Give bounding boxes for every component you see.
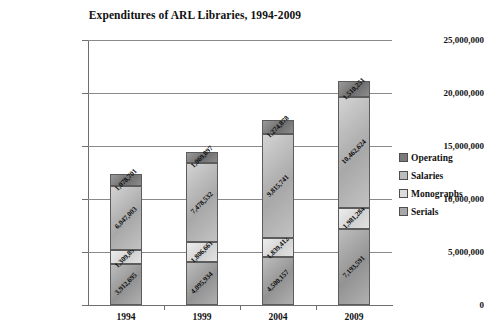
bar-segment-value-label: 6,047,003 bbox=[113, 205, 138, 230]
bar-segment-value-label: 1,839,412 bbox=[265, 235, 290, 260]
bar-segment-value-label: 4,500,157 bbox=[265, 268, 290, 293]
bar-segment-salaries[interactable]: 6,047,003 bbox=[110, 186, 142, 250]
legend-swatch-icon bbox=[399, 207, 408, 216]
x-axis-tick-label: 1999 bbox=[172, 312, 232, 322]
bar-segment-operating[interactable]: 1,078,701 bbox=[110, 174, 142, 185]
x-axis-tick bbox=[316, 305, 317, 310]
bar-group[interactable]: 3,912,6951,309,8976,047,0031,078,701 bbox=[110, 40, 142, 305]
legend-swatch-icon bbox=[399, 171, 408, 180]
bar-segment-monographs[interactable]: 1,839,412 bbox=[262, 238, 294, 257]
y-axis-tick-label: 0 bbox=[406, 300, 484, 310]
chart-title: Expenditures of ARL Libraries, 1994-2009 bbox=[0, 9, 390, 21]
x-axis-tick-label: 1994 bbox=[96, 312, 156, 322]
bar-group[interactable]: 7,193,5911,981,28410,462,6241,510,251 bbox=[338, 40, 370, 305]
bar-segment-salaries[interactable]: 10,462,624 bbox=[338, 97, 370, 208]
legend-item-label: Serials bbox=[411, 207, 438, 217]
x-axis-tick bbox=[164, 305, 165, 310]
x-axis-tick-label: 2009 bbox=[324, 312, 384, 322]
y-axis-tick-label: 20,000,000 bbox=[406, 88, 484, 98]
legend-item-label: Monographs bbox=[411, 189, 463, 199]
bar-segment-salaries[interactable]: 7,478,532 bbox=[186, 163, 218, 242]
bar-segment-operating[interactable]: 1,510,251 bbox=[338, 81, 370, 97]
bar-segment-value-label: 10,462,624 bbox=[340, 138, 368, 166]
bar-segment-serials[interactable]: 3,912,695 bbox=[110, 264, 142, 305]
chart-container: Expenditures of ARL Libraries, 1994-2009… bbox=[0, 0, 484, 335]
chart-legend: OperatingSalariesMonographsSerials bbox=[399, 150, 484, 222]
bar-group[interactable]: 4,095,9341,806,6617,478,5321,069,897 bbox=[186, 40, 218, 305]
bar-segment-value-label: 1,806,661 bbox=[189, 239, 214, 264]
x-axis-tick-label: 2004 bbox=[248, 312, 308, 322]
legend-item-monographs[interactable]: Monographs bbox=[399, 186, 484, 201]
legend-item-label: Salaries bbox=[411, 171, 443, 181]
y-axis-tick bbox=[82, 305, 88, 306]
bar-segment-operating[interactable]: 1,069,897 bbox=[186, 152, 218, 163]
legend-item-label: Operating bbox=[411, 153, 453, 163]
bar-group[interactable]: 4,500,1571,839,4129,815,7411,274,878 bbox=[262, 40, 294, 305]
bar-segment-value-label: 9,815,741 bbox=[265, 173, 290, 198]
legend-swatch-icon bbox=[399, 189, 408, 198]
bar-segment-value-label: 1,981,284 bbox=[341, 206, 366, 231]
bar-segment-value-label: 7,478,532 bbox=[189, 190, 214, 215]
bar-segment-salaries[interactable]: 9,815,741 bbox=[262, 134, 294, 238]
legend-item-salaries[interactable]: Salaries bbox=[399, 168, 484, 183]
bar-segment-value-label: 4,095,934 bbox=[189, 271, 214, 296]
bar-segment-serials[interactable]: 4,095,934 bbox=[186, 262, 218, 305]
bar-segment-serials[interactable]: 7,193,591 bbox=[338, 229, 370, 305]
bar-segment-monographs[interactable]: 1,309,897 bbox=[110, 250, 142, 264]
bar-segment-serials[interactable]: 4,500,157 bbox=[262, 257, 294, 305]
y-axis-tick-label: 25,000,000 bbox=[406, 35, 484, 45]
bar-segment-monographs[interactable]: 1,981,284 bbox=[338, 208, 370, 229]
bar-segment-value-label: 7,193,591 bbox=[341, 254, 366, 279]
plot-area: 3,912,6951,309,8976,047,0031,078,7014,09… bbox=[88, 40, 392, 305]
bar-segment-value-label: 3,912,695 bbox=[113, 272, 138, 297]
bar-segment-monographs[interactable]: 1,806,661 bbox=[186, 242, 218, 261]
legend-swatch-icon bbox=[399, 153, 408, 162]
legend-item-serials[interactable]: Serials bbox=[399, 204, 484, 219]
y-axis-tick-label: 5,000,000 bbox=[406, 247, 484, 257]
x-axis-tick bbox=[240, 305, 241, 310]
bar-segment-operating[interactable]: 1,274,878 bbox=[262, 120, 294, 134]
legend-item-operating[interactable]: Operating bbox=[399, 150, 484, 165]
